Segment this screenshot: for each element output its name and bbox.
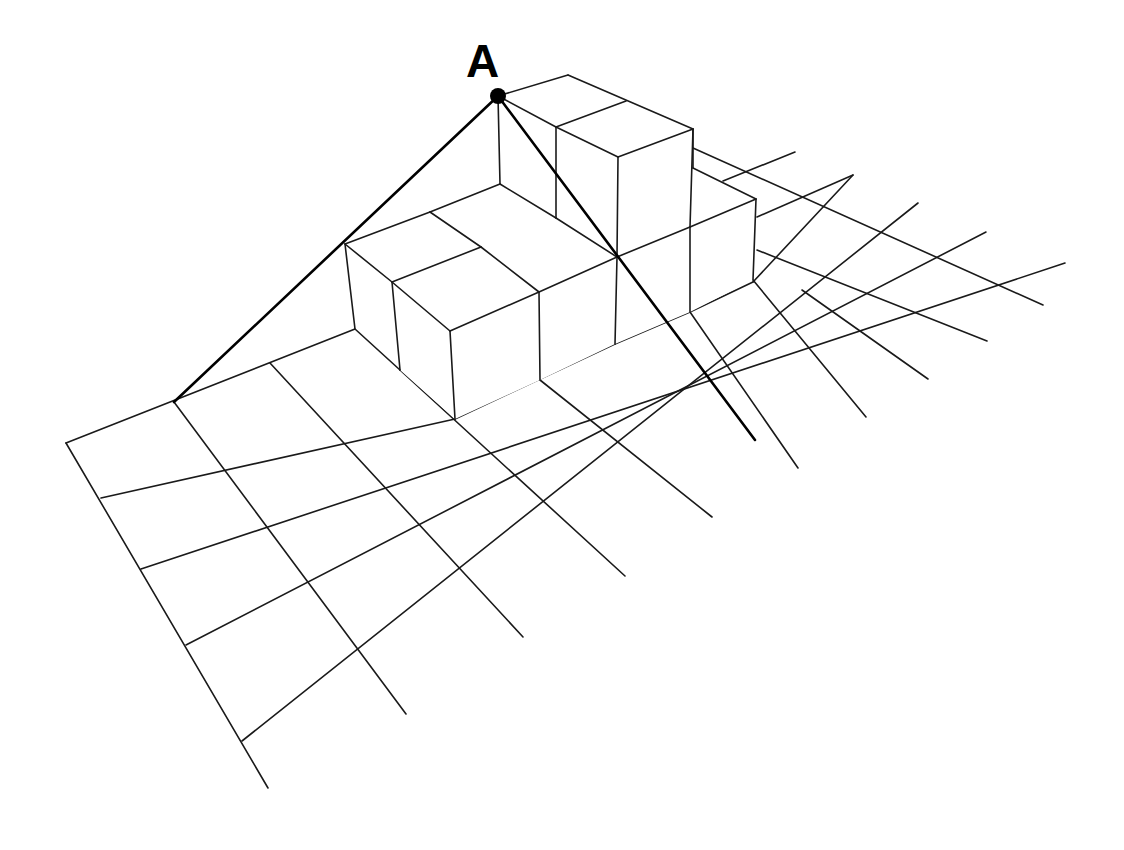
- point-a-dot: [490, 88, 506, 104]
- grid-row-line: [101, 419, 455, 498]
- grid-column-line: [802, 290, 928, 379]
- grid-column-line: [400, 370, 625, 576]
- grid-row-line: [757, 175, 853, 217]
- grid-column-line: [66, 443, 268, 788]
- grid-row-line: [66, 329, 355, 443]
- cube-occluder: [345, 75, 756, 419]
- grid-column-line: [174, 402, 406, 714]
- grid-cube-diagram: [0, 0, 1124, 850]
- cube-faces-fill: [345, 75, 756, 419]
- cube-edge: [498, 96, 500, 184]
- grid-column-line: [690, 312, 798, 468]
- point-a-label: A: [466, 38, 499, 84]
- cube-edge: [539, 292, 540, 380]
- grid-column-line: [753, 280, 866, 417]
- cube-edge: [617, 157, 618, 257]
